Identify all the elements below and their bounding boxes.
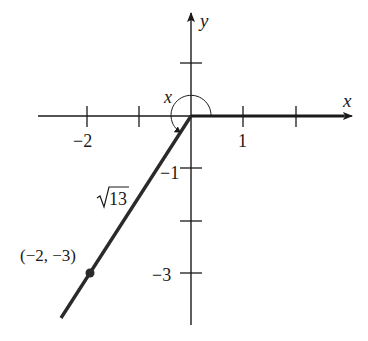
y-tick-label-neg3: −3 (152, 265, 171, 285)
coordinate-diagram: y x x −2 1 −1 −3 13 (−2, −3) (0, 0, 368, 341)
segment-length-label: 13 (97, 187, 129, 209)
y-tick-label-neg1: −1 (160, 163, 179, 183)
y-axis-label: y (198, 10, 209, 31)
x-tick-label-1: 1 (238, 131, 247, 151)
x-axis-label: x (342, 90, 352, 111)
angle-label: x (163, 87, 172, 107)
x-tick-label-neg2: −2 (73, 131, 92, 151)
radicand: 13 (109, 189, 127, 209)
terminal-point-label: (−2, −3) (20, 246, 76, 265)
terminal-point-dot (86, 269, 95, 278)
